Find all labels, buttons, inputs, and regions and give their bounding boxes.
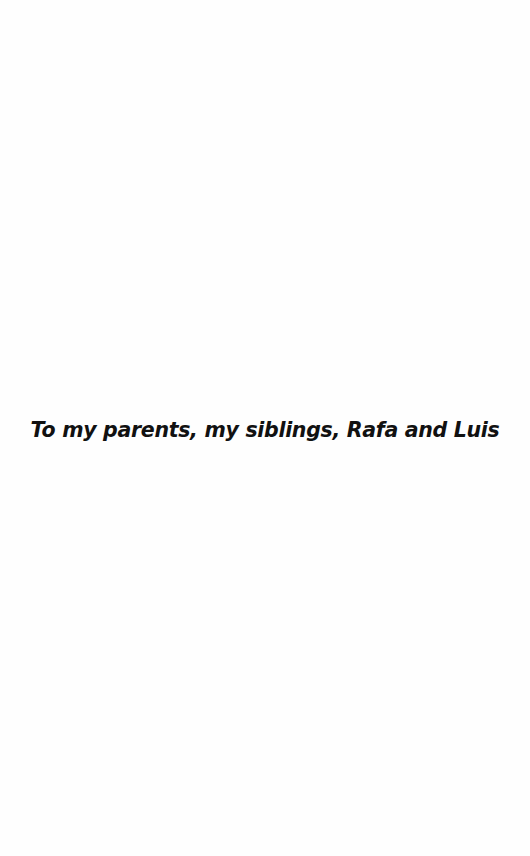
dedication-text: To my parents, my siblings, Rafa and Lui… bbox=[0, 414, 530, 446]
book-page: To my parents, my siblings, Rafa and Lui… bbox=[0, 0, 530, 856]
